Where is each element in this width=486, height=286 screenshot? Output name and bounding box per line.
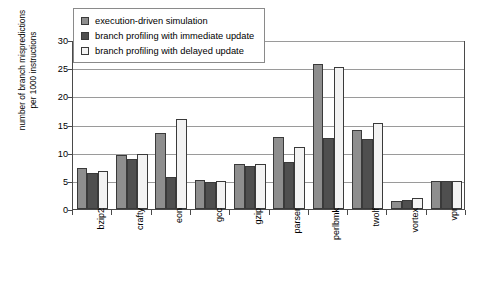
bar	[87, 173, 98, 209]
x-tick-label: perlbmk	[331, 208, 341, 268]
x-tick-mark	[151, 210, 152, 215]
y-tick-mark	[68, 154, 73, 155]
bar	[155, 133, 166, 209]
bar	[216, 181, 227, 209]
bar	[323, 138, 334, 209]
bar	[334, 67, 345, 209]
bar	[234, 164, 245, 209]
x-tick-mark	[269, 210, 270, 215]
x-tick-mark	[347, 210, 348, 215]
bar	[362, 139, 373, 209]
bar-group	[152, 41, 191, 209]
bar	[77, 168, 88, 209]
x-tick-mark	[190, 210, 191, 215]
x-tick-label: vortex	[410, 208, 420, 268]
y-tick-label: 30	[46, 36, 68, 46]
y-axis-ticks: 051015202530	[42, 0, 68, 286]
bar	[195, 180, 206, 209]
bar	[313, 64, 324, 209]
y-tick-label: 10	[46, 149, 68, 159]
bar-group	[348, 41, 387, 209]
x-tick-mark	[111, 210, 112, 215]
x-tick-mark	[308, 210, 309, 215]
legend-label: branch profiling with delayed update	[95, 46, 244, 56]
y-tick-label: 15	[46, 121, 68, 131]
x-tick-mark	[465, 210, 466, 215]
x-tick-mark	[386, 210, 387, 215]
bar-group	[387, 41, 426, 209]
bar	[116, 155, 127, 209]
x-tick-label: gcc	[214, 208, 224, 268]
x-tick-label: twolf	[371, 208, 381, 268]
y-tick-mark	[68, 69, 73, 70]
bar	[273, 137, 284, 209]
legend-swatch-icon	[81, 47, 89, 55]
y-tick-mark	[68, 182, 73, 183]
plot-area	[72, 41, 465, 210]
y-tick-label: 0	[46, 205, 68, 215]
y-tick-mark	[68, 126, 73, 127]
bar	[391, 201, 402, 209]
y-tick-mark	[68, 210, 73, 211]
x-tick-mark	[426, 210, 427, 215]
bar	[294, 147, 305, 209]
legend-item: branch profiling with delayed update	[81, 43, 254, 58]
bar	[255, 164, 266, 209]
bar-group	[230, 41, 269, 209]
y-tick-label: 25	[46, 64, 68, 74]
bar	[98, 171, 109, 209]
legend-swatch-icon	[81, 17, 89, 25]
legend-label: execution-driven simulation	[95, 16, 208, 26]
bar	[176, 119, 187, 209]
legend-item: branch profiling with immediate update	[81, 28, 254, 43]
bar-group	[112, 41, 151, 209]
x-tick-label: eon	[174, 208, 184, 268]
bar-chart: number of branch mispredictions per 1000…	[0, 0, 486, 286]
bar	[137, 154, 148, 209]
legend-label: branch profiling with immediate update	[95, 31, 254, 41]
bar-group	[309, 41, 348, 209]
legend-swatch-icon	[81, 32, 89, 40]
legend-item: execution-driven simulation	[81, 13, 254, 28]
bar	[441, 181, 452, 209]
x-tick-label: gzip	[253, 208, 263, 268]
y-tick-label: 20	[46, 92, 68, 102]
bar	[373, 123, 384, 209]
bar	[352, 130, 363, 209]
bar	[431, 181, 442, 209]
bar	[245, 166, 256, 209]
bar-group	[270, 41, 309, 209]
x-tick-label: bzip2	[96, 208, 106, 268]
x-tick-mark	[229, 210, 230, 215]
x-tick-label: vpr	[449, 208, 459, 268]
y-tick-label: 5	[46, 177, 68, 187]
y-tick-mark	[68, 97, 73, 98]
bar	[166, 177, 177, 209]
x-tick-label: parser	[292, 208, 302, 268]
x-tick-label: crafty	[135, 208, 145, 268]
legend: execution-driven simulationbranch profil…	[73, 8, 265, 63]
bar-group	[427, 41, 466, 209]
bar	[205, 182, 216, 209]
bar-group	[73, 41, 112, 209]
bar	[452, 181, 463, 209]
bar	[284, 162, 295, 209]
bar-group	[191, 41, 230, 209]
bar	[127, 159, 138, 209]
